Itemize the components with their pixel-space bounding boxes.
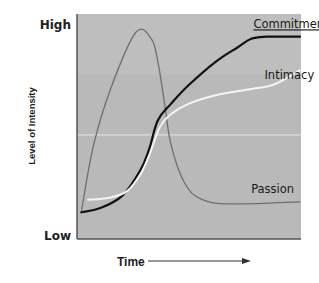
y-tick-high: High <box>40 18 71 32</box>
x-axis-label: Time <box>117 255 145 269</box>
series-label-intimacy: Intimacy <box>264 68 314 82</box>
series-label-commitment: Commitment <box>253 17 319 31</box>
series-label-passion: Passion <box>251 182 294 196</box>
line-chart: PassionCommitmentIntimacy High Low Level… <box>0 0 319 283</box>
y-tick-low: Low <box>44 229 71 243</box>
time-arrow-icon <box>148 258 251 264</box>
y-axis-label: Level of Intensity <box>26 86 37 164</box>
